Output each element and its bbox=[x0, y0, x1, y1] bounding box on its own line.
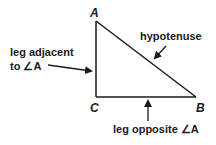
leg-adjacent-label-line1: leg adjacent bbox=[10, 46, 74, 58]
vertex-c-label: C bbox=[90, 101, 99, 115]
leg-adjacent-arrow bbox=[48, 65, 91, 71]
vertex-b-label: B bbox=[196, 101, 205, 115]
leg-opposite-label: leg opposite ∠A bbox=[113, 123, 199, 135]
hypotenuse-arrow bbox=[155, 46, 166, 58]
vertex-a-label: A bbox=[89, 6, 99, 20]
hypotenuse-label: hypotenuse bbox=[140, 30, 202, 42]
leg-adjacent-label-line2: to ∠A bbox=[10, 60, 41, 72]
right-triangle-diagram: A C B hypotenuse leg adjacent to ∠A leg … bbox=[0, 0, 216, 145]
